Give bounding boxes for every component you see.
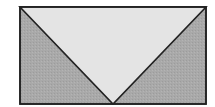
diagram-canvas	[0, 0, 215, 107]
rectangle-triangle-figure	[0, 0, 215, 107]
